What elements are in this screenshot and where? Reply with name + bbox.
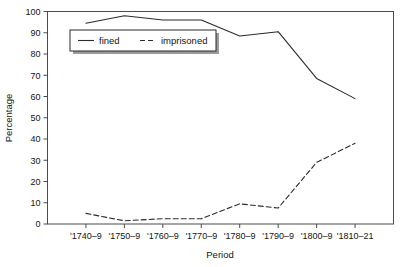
series-line-imprisoned: [86, 143, 355, 221]
y-tick-label: 10: [30, 198, 40, 208]
x-axis-title: Period: [206, 249, 233, 260]
x-tick-label: '1750–9: [109, 231, 141, 241]
y-axis: 0102030405060708090100: [25, 7, 47, 230]
chart-legend: fined imprisoned: [70, 30, 219, 54]
y-tick-label: 0: [35, 219, 40, 229]
y-axis-title: Percentage: [3, 94, 14, 143]
y-tick-label: 80: [30, 49, 40, 59]
x-tick-label: '1770–9: [185, 231, 217, 241]
x-tick-label: '1800–9: [301, 231, 333, 241]
y-tick-label: 20: [30, 177, 40, 187]
legend-label-imprisoned: imprisoned: [161, 35, 207, 46]
x-axis: '1740–9'1750–9'1760–9'1770–9'1780–9'1790…: [70, 224, 373, 241]
x-tick-label: '1790–9: [262, 231, 294, 241]
series-line-fined: [86, 16, 355, 99]
y-tick-label: 30: [30, 156, 40, 166]
x-tick-label: '1810–21: [337, 231, 374, 241]
x-tick-label: '1780–9: [224, 231, 256, 241]
y-tick-label: 100: [25, 7, 40, 17]
y-tick-label: 50: [30, 113, 40, 123]
y-tick-label: 60: [30, 92, 40, 102]
y-tick-label: 70: [30, 71, 40, 81]
line-chart-svg: 0102030405060708090100 '1740–9'1750–9'17…: [0, 0, 402, 267]
y-tick-label: 90: [30, 28, 40, 38]
y-tick-label: 40: [30, 134, 40, 144]
x-tick-label: '1760–9: [147, 231, 179, 241]
legend-label-fined: fined: [99, 35, 120, 46]
x-tick-label: '1740–9: [70, 231, 102, 241]
chart-figure: 0102030405060708090100 '1740–9'1750–9'17…: [0, 0, 402, 267]
